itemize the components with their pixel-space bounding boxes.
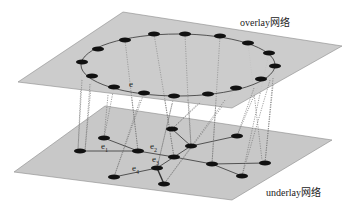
edge-label-e4: e4: [132, 163, 139, 175]
edge-label-e2-sub: 2: [154, 147, 157, 153]
edge-label-e1-sub: 1: [105, 147, 108, 153]
overlay-edge-label: e: [129, 79, 133, 89]
edge-label-e4-sub: 4: [136, 169, 139, 175]
overlay-label: overlay网络: [240, 14, 290, 29]
overlay-plane: [18, 12, 342, 108]
network-diagram: [0, 0, 355, 215]
edge-label-e3-sub: 3: [156, 160, 159, 166]
underlay-label: underlay网络: [266, 184, 321, 199]
edge-label-e2: e2: [150, 141, 157, 153]
edge-label-e1: e1: [101, 141, 108, 153]
edge-label-e3: e3: [152, 154, 159, 166]
